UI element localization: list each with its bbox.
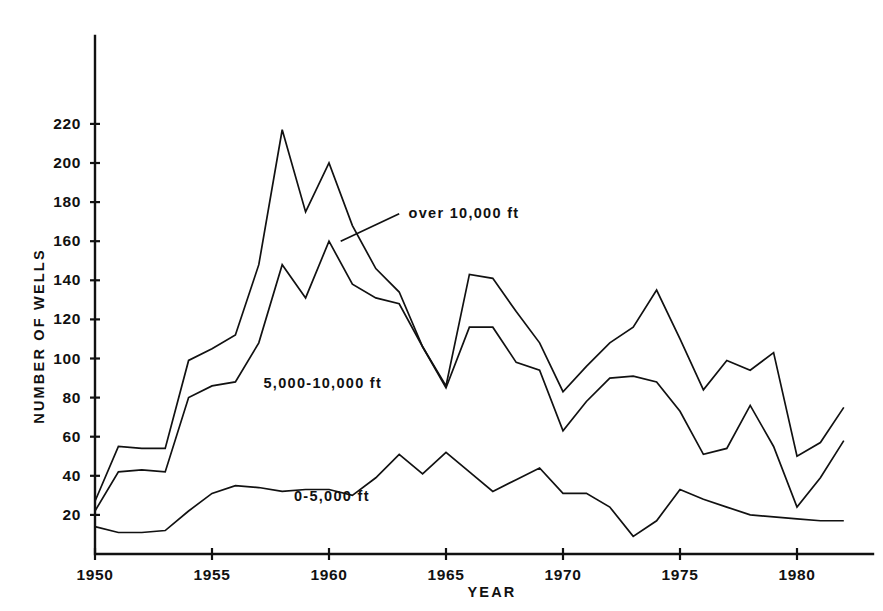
x-tick-label: 1965 bbox=[428, 566, 465, 583]
x-axis-title: YEAR bbox=[467, 584, 516, 600]
series-line-0-5-000-ft bbox=[95, 452, 844, 536]
x-tick-label: 1980 bbox=[779, 566, 816, 583]
data-series-group bbox=[95, 130, 844, 537]
y-tick-label: 180 bbox=[53, 193, 81, 210]
line-chart-canvas: 20406080100120140160180200220 1950195519… bbox=[0, 0, 883, 611]
series-annotations: over 10,000 ft5,000-10,000 ft0-5,000 ft bbox=[263, 205, 519, 504]
chart-axes bbox=[95, 36, 873, 554]
y-axis-tick-labels: 20406080100120140160180200220 bbox=[53, 115, 81, 523]
series-line-over-10-000-ft bbox=[95, 130, 844, 501]
x-tick-label: 1970 bbox=[545, 566, 582, 583]
y-axis-title: NUMBER OF WELLS bbox=[31, 248, 47, 424]
x-axis-tick-labels: 1950195519601965197019751980 bbox=[77, 566, 816, 583]
x-tick-label: 1950 bbox=[77, 566, 114, 583]
y-tick-label: 200 bbox=[53, 154, 81, 171]
annotation-label-over-10-000-ft: over 10,000 ft bbox=[409, 205, 520, 221]
y-tick-label: 120 bbox=[53, 310, 81, 327]
y-tick-label: 20 bbox=[63, 506, 81, 523]
y-tick-label: 40 bbox=[63, 467, 81, 484]
annotation-label-0-5-000-ft: 0-5,000 ft bbox=[294, 488, 370, 504]
y-tick-label: 60 bbox=[63, 428, 81, 445]
x-tick-label: 1955 bbox=[194, 566, 231, 583]
x-tick-label: 1975 bbox=[662, 566, 699, 583]
series-line-5-000-10-000-ft bbox=[95, 241, 844, 511]
y-tick-label: 100 bbox=[53, 350, 81, 367]
y-tick-label: 160 bbox=[53, 232, 81, 249]
y-tick-label: 220 bbox=[53, 115, 81, 132]
chart-figure: 20406080100120140160180200220 1950195519… bbox=[0, 0, 883, 611]
annotation-label-5-000-10-000-ft: 5,000-10,000 ft bbox=[263, 375, 382, 391]
axis-spine bbox=[95, 36, 873, 554]
y-tick-label: 80 bbox=[63, 389, 81, 406]
x-tick-label: 1960 bbox=[311, 566, 348, 583]
y-tick-label: 140 bbox=[53, 271, 81, 288]
